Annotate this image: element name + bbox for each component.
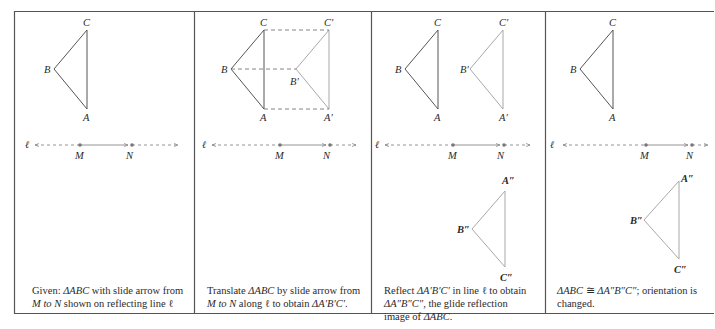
svg-text:ℓ: ℓ: [375, 139, 379, 150]
svg-text:C′: C′: [499, 17, 509, 28]
panel-3-diagram: C B A C′ B′ A′ A″ B″ C″ ℓ M N: [375, 17, 530, 283]
svg-text:C: C: [260, 17, 268, 28]
triangle-a1b1c1: [470, 30, 503, 109]
figure-frame: [14, 11, 714, 314]
svg-text:B″: B″: [629, 215, 643, 226]
svg-text:ℓ: ℓ: [202, 139, 206, 150]
triangle-a2b2c2: [472, 191, 505, 267]
svg-text:M: M: [639, 150, 650, 161]
svg-text:C: C: [434, 17, 442, 28]
svg-text:A′: A′: [498, 112, 508, 123]
panel-1-caption: Given: ΔABC with slide arrow from M to N…: [32, 284, 192, 310]
svg-text:N: N: [322, 150, 331, 161]
panel-3-caption: Reflect ΔA′B′C′ in line ℓ to obtain ΔA″B…: [384, 284, 544, 323]
svg-text:C″: C″: [500, 272, 513, 283]
svg-text:ℓ: ℓ: [25, 139, 29, 150]
svg-text:A″: A″: [501, 175, 515, 186]
reflecting-line-l: [385, 143, 530, 147]
svg-text:C: C: [83, 17, 91, 28]
svg-text:N: N: [125, 150, 134, 161]
svg-text:A: A: [82, 112, 90, 123]
glide-reflection-figure: C B A ℓ M N C B A C′ B′ A′: [0, 0, 715, 329]
panel-4-caption: ΔABC ≅ ΔA″B″C″; orientation is changed.: [557, 284, 712, 310]
svg-text:A′: A′: [323, 112, 333, 123]
reflecting-line-l: [563, 143, 708, 147]
point-m: [78, 143, 82, 147]
triangle-a2b2c2: [644, 181, 679, 259]
svg-text:N: N: [685, 150, 694, 161]
reflecting-line-l: [35, 143, 178, 147]
panel-4-diagram: C B A A″ B″ C″ ℓ M N: [550, 17, 708, 275]
triangle-abc: [54, 30, 87, 109]
point-n: [130, 143, 134, 147]
svg-text:ℓ: ℓ: [550, 139, 554, 150]
svg-text:M: M: [274, 150, 285, 161]
svg-text:B′: B′: [460, 64, 469, 75]
svg-text:B″: B″: [456, 224, 470, 235]
svg-text:M: M: [74, 150, 85, 161]
reflecting-line-l: [212, 143, 356, 147]
triangle-abc: [231, 30, 264, 109]
point-m: [278, 143, 282, 147]
point-n: [502, 143, 506, 147]
svg-text:C″: C″: [674, 264, 687, 275]
svg-text:A″: A″: [680, 173, 694, 184]
point-m: [451, 143, 455, 147]
triangle-abc: [580, 30, 613, 109]
svg-text:B: B: [221, 64, 228, 75]
triangle-a1b1c1: [296, 30, 329, 109]
svg-text:C′: C′: [324, 17, 334, 28]
svg-text:B: B: [395, 64, 402, 75]
svg-text:M: M: [447, 150, 458, 161]
svg-text:B: B: [44, 64, 51, 75]
point-n: [328, 143, 332, 147]
svg-text:B′: B′: [290, 76, 299, 87]
panel-1-diagram: C B A ℓ M N: [25, 17, 178, 161]
svg-text:N: N: [496, 150, 505, 161]
svg-text:C: C: [609, 17, 617, 28]
point-m: [644, 143, 648, 147]
svg-text:B: B: [570, 64, 577, 75]
svg-text:A: A: [259, 112, 267, 123]
panel-2-diagram: C B A C′ B′ A′ ℓ M N: [202, 17, 356, 161]
svg-text:A: A: [433, 112, 441, 123]
svg-text:A: A: [608, 112, 616, 123]
panel-2-caption: Translate ΔABC by slide arrow from M to …: [207, 284, 372, 310]
triangle-abc: [405, 30, 438, 109]
figure-canvas: C B A ℓ M N C B A C′ B′ A′: [0, 0, 715, 329]
point-n: [690, 143, 694, 147]
